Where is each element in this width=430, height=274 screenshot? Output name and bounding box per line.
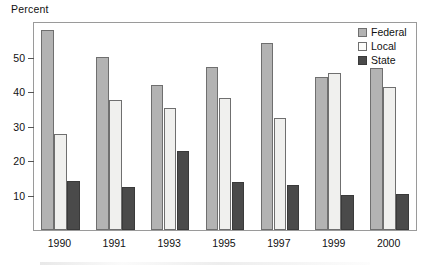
bar-local-2000 [383, 87, 396, 230]
bar-federal-1993 [151, 85, 164, 230]
bar-state-1997 [287, 185, 300, 230]
bar-state-1991 [122, 187, 135, 230]
x-axis-tick-label: 1990 [48, 237, 71, 249]
page-artifact [40, 262, 370, 265]
bar-federal-1991 [96, 57, 109, 230]
grouped-bar-chart: Percent 1020304050 199019911993199519971… [0, 0, 430, 274]
bar-group [151, 23, 190, 230]
bar-state-1990 [67, 181, 80, 230]
bar-state-2000 [396, 194, 409, 230]
bar-federal-1995 [206, 67, 219, 230]
bar-local-1991 [109, 100, 122, 230]
legend-item-label: Federal [371, 26, 407, 38]
local-swatch-icon [358, 42, 367, 51]
legend-item-federal: Federal [358, 26, 407, 38]
x-axis-tick-label: 1999 [322, 237, 345, 249]
x-axis-tick-label: 1997 [267, 237, 290, 249]
legend-item-state: State [358, 54, 407, 66]
bar-group [41, 23, 80, 230]
y-axis-tick-label: 40 [13, 86, 25, 98]
state-swatch-icon [358, 56, 367, 65]
legend-item-local: Local [358, 40, 407, 52]
bar-federal-1990 [41, 30, 54, 230]
y-axis-tick-mark [28, 196, 34, 197]
legend-item-label: Local [371, 40, 396, 52]
bar-local-1997 [274, 118, 287, 231]
bar-state-1999 [341, 195, 354, 230]
x-axis-tick-label: 1991 [103, 237, 126, 249]
bar-local-1990 [54, 134, 67, 230]
y-axis-tick-mark [28, 58, 34, 59]
y-axis-title: Percent [11, 3, 49, 15]
chart-legend: FederalLocalState [358, 26, 407, 66]
bar-group [261, 23, 300, 230]
x-axis-tick-label: 1995 [212, 237, 235, 249]
federal-swatch-icon [358, 28, 367, 37]
y-axis-tick-label: 50 [13, 52, 25, 64]
y-axis-tick-label: 20 [13, 155, 25, 167]
bar-state-1995 [232, 182, 245, 230]
bar-group [315, 23, 354, 230]
x-axis-tick-label: 1993 [157, 237, 180, 249]
bar-group [96, 23, 135, 230]
bar-local-1999 [328, 73, 341, 230]
y-axis-tick-mark [28, 161, 34, 162]
bar-group [206, 23, 245, 230]
bar-federal-1999 [315, 77, 328, 230]
y-axis-tick-mark [28, 92, 34, 93]
bar-state-1993 [177, 151, 190, 230]
y-axis-tick-label: 30 [13, 121, 25, 133]
bar-federal-2000 [370, 68, 383, 230]
legend-item-label: State [371, 54, 396, 66]
y-axis-tick-label: 10 [13, 190, 25, 202]
bar-local-1995 [219, 98, 232, 230]
y-axis-tick-mark [28, 127, 34, 128]
bar-federal-1997 [261, 43, 274, 230]
x-axis-tick-label: 2000 [377, 237, 400, 249]
bar-local-1993 [164, 108, 177, 230]
